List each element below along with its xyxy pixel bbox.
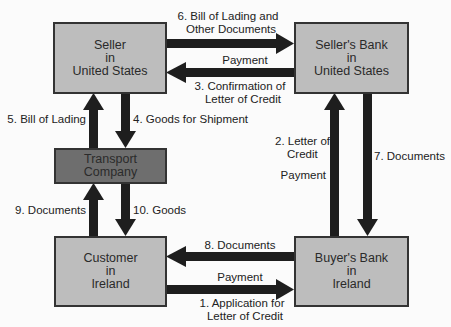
node-transport-line1: Transport Company <box>56 153 165 179</box>
label-9: 9. Documents <box>6 204 86 217</box>
label-6-line1: 6. Bill of Lading and <box>176 10 280 23</box>
label-7-text: 7. Documents <box>374 150 445 162</box>
label-2: 2. Letter of Credit <box>275 135 330 160</box>
label-4-text: 4. Goods for Shipment <box>133 113 248 125</box>
node-buyers-bank-line3: Ireland <box>332 278 370 291</box>
node-seller: Seller in United States <box>53 22 167 94</box>
label-2-line1: 2. Letter of <box>275 135 330 148</box>
node-sellers-bank-line1: Seller's Bank <box>315 39 388 52</box>
label-10-text: 10. Goods <box>133 204 186 216</box>
node-seller-line3: United States <box>72 65 147 78</box>
label-7: 7. Documents <box>374 150 445 163</box>
label-8-text: 8. Documents <box>205 239 276 251</box>
label-3-payment: Payment <box>205 54 285 67</box>
label-3: 3. Confirmation of Letter of Credit <box>188 80 292 105</box>
label-2-line2: Credit <box>275 148 330 161</box>
label-3-line1: 3. Confirmation of <box>188 80 292 93</box>
label-9-text: 9. Documents <box>15 204 86 216</box>
label-5-text: 5. Bill of Lading <box>7 113 86 125</box>
label-3-line2: Letter of Credit <box>188 93 292 106</box>
node-sellers-bank-line2: in <box>347 52 357 65</box>
label-1-line1: 1. Application for <box>190 297 294 310</box>
label-5: 5. Bill of Lading <box>6 113 86 126</box>
arrow-6-bill-of-lading <box>166 33 294 54</box>
arrow-9-documents <box>83 183 104 236</box>
arrow-7-documents <box>357 93 378 236</box>
node-seller-line2: in <box>105 52 115 65</box>
label-10: 10. Goods <box>133 204 186 217</box>
node-seller-line1: Seller <box>94 39 126 52</box>
node-customer: Customer in Ireland <box>54 236 167 307</box>
node-buyers-bank: Buyer's Bank in Ireland <box>294 236 409 307</box>
node-sellers-bank: Seller's Bank in United States <box>294 22 409 94</box>
label-1: 1. Application for Letter of Credit <box>190 297 294 322</box>
label-1-payment: Payment <box>190 271 290 284</box>
label-8: 8. Documents <box>190 239 290 252</box>
arrow-2-letter-of-credit-payment <box>324 93 345 236</box>
node-sellers-bank-line3: United States <box>314 65 389 78</box>
label-1-payment-text: Payment <box>217 271 262 283</box>
label-3-payment-text: Payment <box>222 54 267 66</box>
label-1-line2: Letter of Credit <box>190 310 294 323</box>
label-6-line2: Other Documents <box>176 23 280 36</box>
arrow-5-bill-of-lading <box>83 93 104 148</box>
node-customer-line3: Ireland <box>91 278 129 291</box>
node-transport-company: Transport Company <box>54 148 167 184</box>
label-4: 4. Goods for Shipment <box>133 113 248 126</box>
label-2-payment: Payment <box>270 169 326 182</box>
label-6: 6. Bill of Lading and Other Documents <box>176 10 280 35</box>
label-2-payment-text: Payment <box>281 169 326 181</box>
